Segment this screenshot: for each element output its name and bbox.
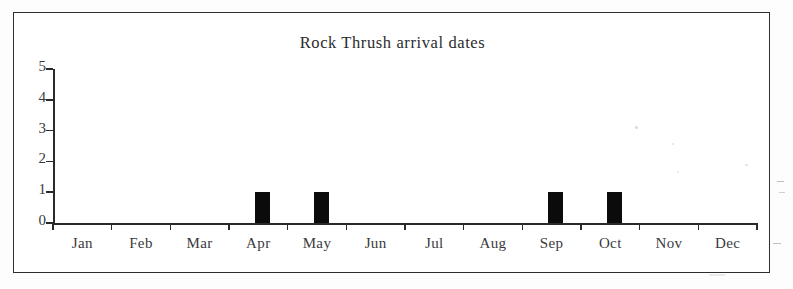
x-axis-label-jan: Jan: [53, 235, 112, 252]
plot-area: 012345 JanFebMarAprMayJunJulAugSepOctNov…: [53, 69, 757, 223]
x-axis-tick-mark: [346, 223, 348, 230]
x-axis-tick-mark: [287, 223, 289, 230]
scan-speck: [635, 126, 638, 129]
y-axis-line: [53, 69, 55, 223]
x-axis-tick-mark: [170, 223, 172, 230]
bar-apr: [255, 192, 270, 223]
y-axis-tick-label: 4: [39, 90, 47, 105]
x-axis-label-jun: Jun: [346, 235, 405, 252]
y-axis-tick-mark: [46, 130, 53, 132]
x-axis-tick-mark: [52, 223, 54, 230]
y-axis-tick-label: 0: [39, 213, 47, 228]
x-axis-label-may: May: [288, 235, 347, 252]
x-axis-label-dec: Dec: [698, 235, 757, 252]
x-axis-tick-mark: [639, 223, 641, 230]
y-axis-tick-label: 5: [39, 59, 47, 74]
x-axis-tick-mark: [522, 223, 524, 230]
x-axis-tick-mark: [111, 223, 113, 230]
bar-may: [314, 192, 329, 223]
x-axis-tick-mark: [463, 223, 465, 230]
y-axis-tick-mark: [46, 191, 53, 193]
y-axis-tick-mark: [46, 68, 53, 70]
scan-speck: [677, 171, 679, 173]
bar-oct: [607, 192, 622, 223]
y-axis-tick-mark: [46, 99, 53, 101]
scan-speck: [672, 143, 674, 145]
x-axis-tick-mark: [404, 223, 406, 230]
bar-sep: [548, 192, 563, 223]
x-axis-label-jul: Jul: [405, 235, 464, 252]
y-axis-tick-label: 1: [39, 182, 47, 197]
scan-edge-mark: [779, 192, 785, 193]
chart-figure-frame: Rock Thrush arrival dates 012345 JanFebM…: [13, 12, 770, 273]
x-axis-label-apr: Apr: [229, 235, 288, 252]
x-axis-label-aug: Aug: [464, 235, 523, 252]
x-axis-label-mar: Mar: [170, 235, 229, 252]
scanned-page-background: Rock Thrush arrival dates 012345 JanFebM…: [0, 0, 793, 289]
x-axis-tick-mark: [756, 223, 758, 230]
x-axis-tick-mark: [228, 223, 230, 230]
scan-edge-mark: [773, 243, 781, 244]
y-axis-tick-mark: [46, 161, 53, 163]
y-axis-tick-label: 3: [39, 121, 47, 136]
scan-speck: [709, 274, 725, 276]
x-axis-label-nov: Nov: [640, 235, 699, 252]
x-axis-label-oct: Oct: [581, 235, 640, 252]
x-axis-tick-mark: [698, 223, 700, 230]
scan-edge-mark: [777, 181, 784, 182]
y-axis-tick-label: 2: [39, 151, 47, 166]
x-axis-tick-mark: [580, 223, 582, 230]
scan-speck: [745, 164, 748, 166]
chart-title: Rock Thrush arrival dates: [14, 33, 771, 53]
x-axis-label-feb: Feb: [112, 235, 171, 252]
x-axis-label-sep: Sep: [522, 235, 581, 252]
